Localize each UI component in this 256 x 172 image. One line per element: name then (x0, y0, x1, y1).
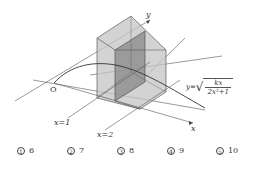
y-axis-label: y (146, 10, 151, 19)
formula-lhs: y= (186, 83, 196, 91)
x2-label: x=2 (97, 130, 113, 139)
solid-of-revolution-figure: O y x x=1 x=2 y=√kx2x²+1 (0, 0, 256, 140)
circled-number-icon: 2 (67, 147, 75, 155)
x-axis-label: x (191, 124, 196, 133)
x1-label: x=1 (54, 118, 70, 127)
figure-svg (0, 0, 256, 140)
answer-choices: 16 27 38 49 510 (0, 146, 256, 162)
circled-number-icon: 3 (117, 147, 125, 155)
choice-3[interactable]: 38 (117, 146, 134, 155)
formula-fraction: kx2x²+1 (203, 78, 233, 96)
choice-4[interactable]: 49 (167, 146, 184, 155)
choice-2[interactable]: 27 (67, 146, 84, 155)
formula-numerator: kx (205, 79, 231, 88)
formula-denominator: 2x²+1 (205, 88, 231, 96)
circled-number-icon: 5 (216, 147, 224, 155)
circled-number-icon: 1 (17, 147, 25, 155)
circled-number-icon: 4 (167, 147, 175, 155)
curve-formula: y=√kx2x²+1 (186, 78, 233, 96)
choice-5[interactable]: 510 (216, 146, 238, 155)
sqrt-icon: √ (196, 80, 204, 94)
choice-1[interactable]: 16 (17, 146, 34, 155)
origin-label: O (50, 85, 57, 94)
